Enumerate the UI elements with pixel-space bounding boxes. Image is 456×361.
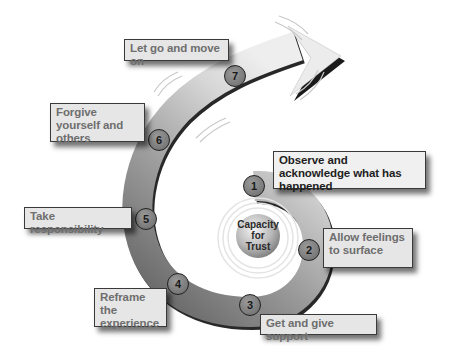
step-3-label: Get and give support <box>260 314 377 335</box>
step-number: 1 <box>251 180 257 192</box>
step-5-label: Take responsibility <box>24 207 132 229</box>
step-4-marker: 4 <box>167 273 189 295</box>
step-7-marker: 7 <box>224 65 246 87</box>
step-7-label: Let go and move on <box>124 39 229 61</box>
center-label: Capacity for Trust <box>232 219 284 252</box>
step-5-marker: 5 <box>135 208 157 230</box>
step-6-label: Forgive yourself and others <box>50 103 145 142</box>
step-2-marker: 2 <box>298 239 320 261</box>
center-label-line: for <box>232 230 284 241</box>
center-label-line: Trust <box>232 241 284 252</box>
step-4-label: Reframe the experience <box>94 288 167 327</box>
step-number: 4 <box>175 278 181 290</box>
step-number: 6 <box>156 134 162 146</box>
step-number: 5 <box>143 213 149 225</box>
step-1-label: Observe and acknowledge what has happene… <box>273 151 426 189</box>
step-number: 2 <box>306 244 312 256</box>
step-1-marker: 1 <box>243 175 265 197</box>
step-6-marker: 6 <box>148 129 170 151</box>
step-3-marker: 3 <box>239 294 261 316</box>
step-number: 3 <box>247 299 253 311</box>
step-number: 7 <box>232 70 238 82</box>
step-2-label: Allow feelings to surface <box>323 228 413 268</box>
center-label-line: Capacity <box>232 219 284 230</box>
